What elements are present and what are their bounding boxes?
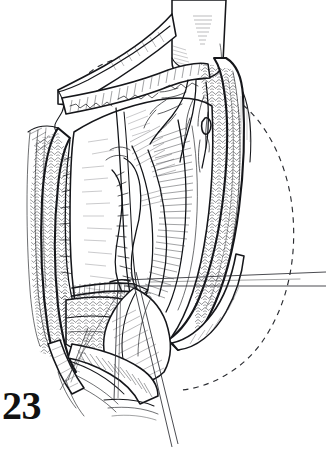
surgical-illustration-canvas bbox=[0, 0, 326, 465]
figure-number-label: 23 bbox=[2, 386, 41, 426]
figure-illustration: 23 bbox=[0, 0, 326, 465]
